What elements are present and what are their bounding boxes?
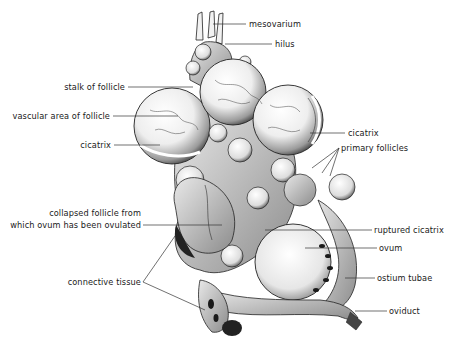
label-connective-tissue: connective tissue	[0, 277, 141, 287]
label-collapsed-follicle-line1: collapsed follicle from	[0, 208, 141, 218]
label-ostium-tubae: ostium tubae	[377, 273, 432, 283]
label-oviduct: oviduct	[389, 306, 420, 316]
follicle-right	[253, 85, 323, 155]
label-collapsed-follicle-line2: which ovum has been ovulated	[0, 220, 141, 230]
ovary-illustration	[0, 0, 452, 342]
label-ruptured-cicatrix: ruptured cicatrix	[374, 225, 444, 235]
label-cicatrix-left: cicatrix	[0, 140, 111, 150]
ovary-diagram: mesovarium hilus stalk of follicle vascu…	[0, 0, 452, 342]
label-cicatrix-right: cicatrix	[348, 128, 379, 138]
ovum	[255, 224, 331, 300]
label-stalk-of-follicle: stalk of follicle	[0, 82, 125, 92]
label-hilus: hilus	[275, 39, 295, 49]
label-vascular-area-of-follicle: vascular area of follicle	[0, 111, 110, 121]
label-mesovarium: mesovarium	[249, 19, 301, 29]
label-ovum: ovum	[379, 243, 402, 253]
label-primary-follicles: primary follicles	[341, 143, 408, 153]
